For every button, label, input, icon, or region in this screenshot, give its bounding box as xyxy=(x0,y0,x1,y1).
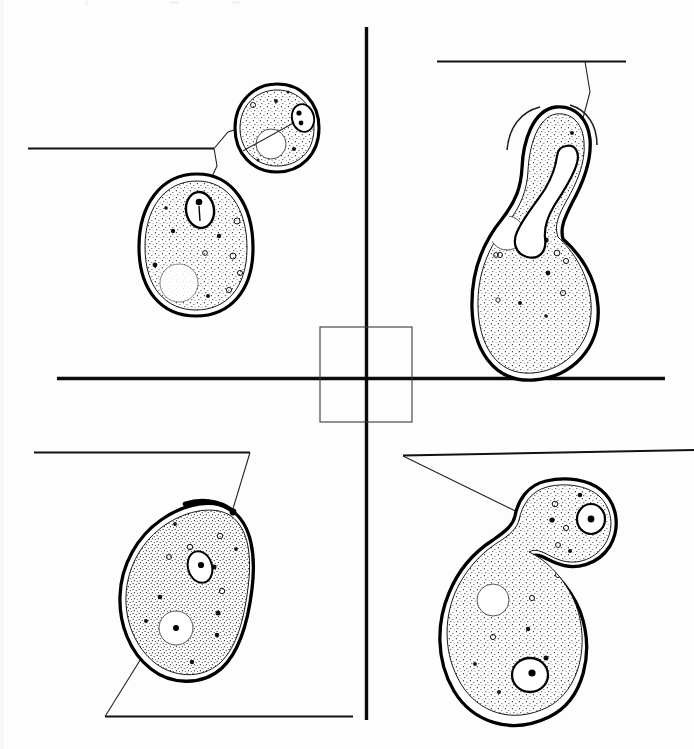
mother-and-daughter-cell xyxy=(440,479,616,726)
large-cell-granule-8 xyxy=(217,234,221,238)
small-cell-vacuole xyxy=(256,129,286,159)
pear-granule-11 xyxy=(234,547,238,551)
leader-to-bud-tip xyxy=(582,62,590,123)
large-cell-granule-6 xyxy=(153,263,158,268)
large-cell-granule-7 xyxy=(171,229,175,233)
quadrant-top-left xyxy=(28,84,319,316)
small-cell-granule-4 xyxy=(257,159,260,162)
small-round-cell xyxy=(235,84,319,172)
small-cell-granule-5 xyxy=(287,91,290,94)
leader-to-bud-scar xyxy=(232,453,250,513)
two-nuc-granule-10 xyxy=(526,627,530,631)
small-cell-nucleolus-a xyxy=(296,110,301,115)
budded-granule-10 xyxy=(546,271,551,276)
pear-granule-12 xyxy=(173,522,177,526)
pear-granule-9 xyxy=(190,660,194,664)
pear-granule-8 xyxy=(215,633,220,638)
budded-granule-11 xyxy=(570,131,574,135)
two-nuc-granule-12 xyxy=(497,690,501,694)
pear-granule-10 xyxy=(144,619,148,623)
figure-root xyxy=(0,0,694,749)
small-cell-nucleolus-b xyxy=(299,121,304,126)
budded-granule-12 xyxy=(518,301,522,305)
two-nuc-granule-7 xyxy=(549,517,554,522)
bud-scar-point xyxy=(230,509,237,516)
label-line-top-right xyxy=(437,62,626,123)
two-nuc-granule-8 xyxy=(578,493,583,498)
pear-granule-6 xyxy=(216,611,221,616)
budded-granule-13 xyxy=(544,314,548,318)
two-nuc-granule-13 xyxy=(473,662,477,666)
large-cell-nucleolus xyxy=(196,199,203,206)
two-nuc-granule-9 xyxy=(544,656,549,661)
pear-cell-nucleolus xyxy=(198,562,204,568)
pear-granule-7 xyxy=(158,595,163,600)
two-nuc-vacuole xyxy=(477,584,509,616)
large-cell-vacuole xyxy=(160,264,198,302)
large-cell-granule-10 xyxy=(206,294,210,298)
pear-shaped-cell xyxy=(120,501,253,681)
mother-with-elongated-bud xyxy=(472,105,598,380)
figure-canvas xyxy=(0,0,694,749)
small-cell-granule-2 xyxy=(274,99,278,103)
mother-nucleolus xyxy=(528,669,535,676)
daughter-nucleolus xyxy=(588,516,595,523)
two-nuc-granule-11 xyxy=(568,549,572,553)
large-cell-granule-9 xyxy=(164,206,168,210)
small-cell-granule-3 xyxy=(292,147,296,151)
quadrant-bottom-right xyxy=(403,450,694,725)
large-oval-cell xyxy=(139,174,253,316)
pear-vacuole-center-dot xyxy=(173,625,179,631)
large-cell-spindle xyxy=(199,206,200,221)
label-rule-q4 xyxy=(403,450,694,456)
budded-granule-9 xyxy=(583,248,588,253)
quadrant-top-right xyxy=(437,62,626,381)
quadrant-bottom-left xyxy=(34,453,353,717)
